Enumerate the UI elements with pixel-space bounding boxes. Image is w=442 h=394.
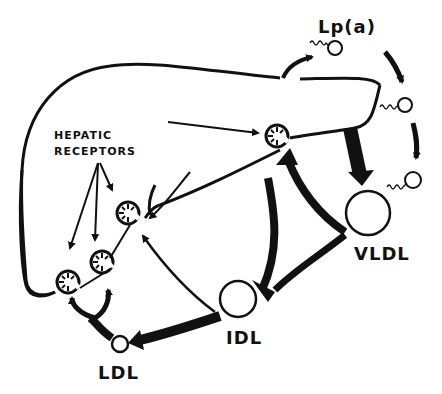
lpa-label: Lp(a) <box>318 16 376 37</box>
lpa-particle-1 <box>328 41 342 55</box>
idl-label: IDL <box>226 327 262 348</box>
receptor-top <box>266 125 288 147</box>
hepatic-receptors-label-line2: RECEPTORS <box>54 143 136 160</box>
idl-particle <box>220 281 256 317</box>
ldl-label: LDL <box>98 362 139 383</box>
receptor-1 <box>57 271 79 293</box>
lipoprotein-diagram <box>0 0 442 394</box>
receptor-3 <box>117 202 139 224</box>
hepatic-receptors-label-line1: HEPATIC <box>54 127 112 144</box>
vldl-label: VLDL <box>354 243 410 264</box>
vldl-particle <box>346 191 390 235</box>
liver-outline <box>21 64 380 295</box>
ldl-particle <box>112 336 128 352</box>
